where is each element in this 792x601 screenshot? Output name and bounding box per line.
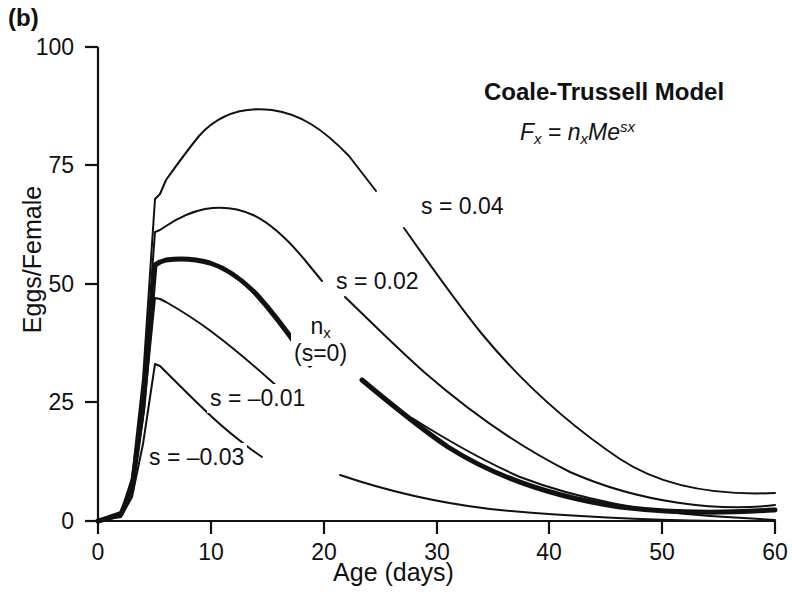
curve-label-s-0.04: s = 0.04 <box>418 192 506 221</box>
y-tick-label-100: 100 <box>4 34 74 61</box>
curve-s-0-nx <box>98 259 775 521</box>
x-axis-title: Age (days) <box>0 558 787 587</box>
eq-equals: = <box>542 119 568 145</box>
curve-label-s-0.02: s = 0.02 <box>333 267 421 296</box>
eq-sup-sx: sx <box>620 118 635 135</box>
nx-label-s0: (s=0) <box>294 340 347 366</box>
curve-s-0.02 <box>98 208 775 521</box>
nx-label-n: n <box>310 313 323 339</box>
y-tick-label-0: 0 <box>4 508 74 535</box>
y-axis-title: Eggs/Female <box>18 150 47 370</box>
model-title: Coale-Trussell Model <box>484 78 724 106</box>
eq-sub-x2: x <box>581 130 589 147</box>
curve-s--0.01 <box>98 298 775 521</box>
nx-label-sub-x: x <box>323 324 331 341</box>
eq-n: n <box>568 119 581 145</box>
model-equation: Fx = nxMesx <box>520 118 635 147</box>
y-tick-label-25: 25 <box>4 389 74 416</box>
curve-label-s--0.01: s = –0.01 <box>207 384 308 413</box>
curve-label-s-0-nx: nx (s=0) <box>291 313 350 366</box>
curve-label-s--0.03: s = –0.03 <box>146 443 247 472</box>
eq-F: F <box>520 119 534 145</box>
eq-Me: Me <box>588 119 620 145</box>
eq-sub-x1: x <box>534 130 542 147</box>
